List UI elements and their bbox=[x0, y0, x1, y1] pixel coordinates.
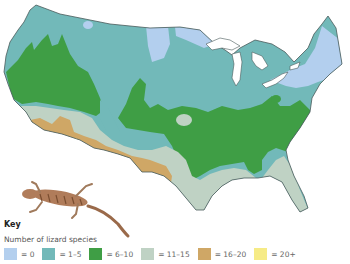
legend-swatch bbox=[4, 248, 17, 260]
legend-item-20-plus: = 20+ bbox=[254, 248, 296, 260]
legend-label: = 11–15 bbox=[158, 250, 190, 259]
lizard-tail bbox=[88, 206, 128, 236]
key-title: Key bbox=[4, 220, 21, 229]
region-20-plus-california bbox=[36, 138, 48, 158]
legend-label: = 16–20 bbox=[215, 250, 247, 259]
legend-label: = 1–5 bbox=[59, 250, 81, 259]
legend-item-0: = 0 bbox=[4, 248, 34, 260]
us-lizard-species-map bbox=[0, 0, 350, 264]
legend-label: = 0 bbox=[21, 250, 34, 259]
legend-swatch bbox=[198, 248, 211, 260]
region-11-15-patch bbox=[176, 114, 192, 126]
region-6-10-dot bbox=[271, 95, 281, 103]
legend-label: = 6–10 bbox=[106, 250, 133, 259]
legend-swatch bbox=[89, 248, 102, 260]
legend-swatch bbox=[254, 248, 267, 260]
legend-label: = 20+ bbox=[271, 250, 296, 259]
lizard-illustration bbox=[22, 182, 128, 236]
legend-item-1-5: = 1–5 bbox=[42, 248, 81, 260]
lake-superior bbox=[206, 38, 240, 50]
region-20-plus-texas bbox=[118, 180, 158, 200]
legend-item-11-15: = 11–15 bbox=[141, 248, 190, 260]
legend: = 0 = 1–5 = 6–10 = 11–15 = 16–20 = 20+ bbox=[4, 248, 304, 260]
legend-item-16-20: = 16–20 bbox=[198, 248, 247, 260]
lizard-head bbox=[22, 189, 38, 199]
key-subtitle: Number of lizard species bbox=[4, 235, 97, 244]
legend-item-6-10: = 6–10 bbox=[89, 248, 133, 260]
region-0-nw-patch bbox=[83, 21, 93, 29]
legend-swatch bbox=[42, 248, 55, 260]
legend-swatch bbox=[141, 248, 154, 260]
